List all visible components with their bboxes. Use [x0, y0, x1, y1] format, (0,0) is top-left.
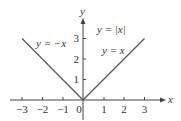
y-axis-arrow-icon [81, 18, 86, 24]
x-tick-label: −2 [37, 103, 49, 115]
x-tick-label: 0 [76, 103, 82, 115]
y-axis-label: y [79, 5, 85, 17]
x-axis-arrow-icon [160, 98, 166, 103]
x-tick-label: 1 [101, 103, 107, 115]
x-tick-label: 2 [121, 103, 127, 115]
x-axis-label: x [167, 93, 173, 105]
y-tick-label: 1 [74, 73, 80, 85]
annotation-abs-x: y = |x| [96, 23, 126, 35]
y-tick-label: 2 [74, 53, 80, 65]
x-tick-label: 3 [142, 103, 148, 115]
annotation-y-neg-x: y = −x [35, 37, 66, 49]
annotation-y-x: y = x [101, 44, 125, 56]
y-tick-label: 3 [74, 32, 80, 44]
abs-value-graph: −3 −2 −1 0 1 2 3 1 2 3 x y y = |x| y = x… [0, 0, 181, 121]
x-tick-label: −3 [16, 103, 28, 115]
x-tick-label: −1 [57, 103, 69, 115]
